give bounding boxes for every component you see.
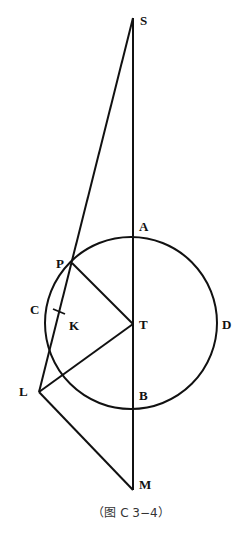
figure-caption: （图 C 3−4）	[92, 506, 169, 520]
label-c: C	[30, 302, 39, 317]
line-s-l	[39, 18, 133, 392]
label-b: B	[139, 388, 148, 403]
label-l: L	[19, 384, 28, 399]
label-t: T	[139, 317, 148, 332]
label-a: A	[139, 219, 149, 234]
label-m: M	[139, 477, 151, 492]
label-k: K	[69, 318, 80, 333]
label-p: P	[56, 256, 64, 271]
line-p-t	[72, 263, 133, 324]
geometry-figure: S A P C K T D L B M （图 C 3−4）	[0, 0, 248, 538]
line-l-m	[39, 392, 133, 490]
label-s: S	[140, 13, 147, 28]
label-d: D	[222, 317, 231, 332]
